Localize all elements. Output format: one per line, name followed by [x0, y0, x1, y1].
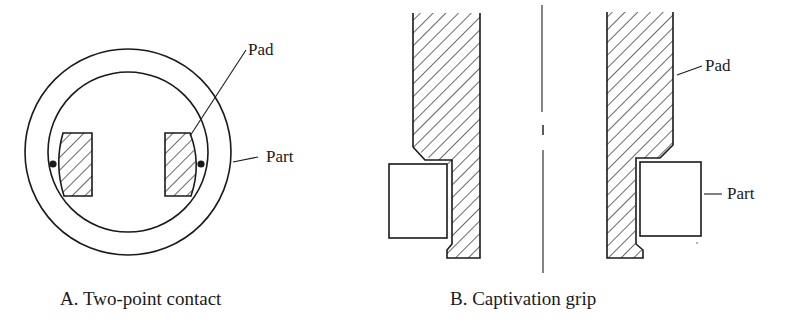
pad-leader-line: [190, 50, 246, 136]
panel-a-two-point-contact: Pad Part A. Two-point contact: [25, 40, 294, 309]
tiny-speck: [696, 242, 698, 244]
contact-point-left: [49, 160, 56, 167]
pad-leader-line-b: [677, 66, 702, 75]
pad-callout-a: Pad: [248, 40, 274, 59]
part-outer-circle: [25, 49, 231, 255]
left-pad: [59, 133, 92, 196]
left-part-block: [389, 164, 447, 238]
part-callout-b: Part: [727, 184, 755, 203]
right-pad: [165, 133, 196, 196]
part-callout-a: Part: [266, 147, 294, 166]
part-leader-line: [233, 157, 258, 162]
right-part-block: [640, 162, 701, 236]
pad-callout-b: Pad: [705, 56, 731, 75]
contact-point-right: [197, 160, 204, 167]
panel-b-captivation-grip: Pad Part B. Captivation grip: [389, 5, 755, 309]
gripper-diagram: Pad Part A. Two-point contact Pad Part B…: [0, 0, 786, 329]
caption-b: B. Captivation grip: [450, 288, 596, 309]
caption-a: A. Two-point contact: [60, 288, 222, 309]
